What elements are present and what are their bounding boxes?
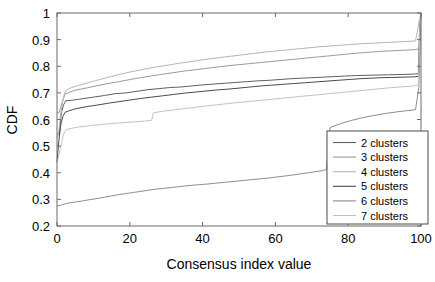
legend[interactable]: 2 clusters3 clusters4 clusters5 clusters… [327,131,428,224]
y-tick-label: 0.5 [32,139,50,154]
y-tick-label: 0.3 [32,192,50,207]
legend-label-6-clusters: 6 clusters [361,195,409,207]
y-tick-labels: 0.20.30.40.50.60.70.80.91 [32,6,50,234]
legend-label-4-clusters: 4 clusters [361,166,409,178]
y-tick-label: 0.9 [32,33,50,48]
consensus-cdf-plot: 020406080100 0.20.30.40.50.60.70.80.91 C… [0,0,435,282]
legend-label-2-clusters: 2 clusters [361,137,409,149]
legend-label-3-clusters: 3 clusters [361,151,409,163]
x-axis-title: Consensus index value [167,256,312,272]
x-tick-label: 40 [195,231,209,246]
y-tick-label: 1 [43,6,50,21]
y-tick-label: 0.8 [32,59,50,74]
y-tick-label: 0.2 [32,219,50,234]
x-tick-label: 0 [53,231,60,246]
y-tick-label: 0.7 [32,86,50,101]
legend-label-7-clusters: 7 clusters [361,210,409,222]
x-tick-label: 80 [341,231,355,246]
legend-label-5-clusters: 5 clusters [361,180,409,192]
cdf-chart-figure: 020406080100 0.20.30.40.50.60.70.80.91 C… [0,0,435,282]
x-tick-label: 60 [268,231,282,246]
y-tick-label: 0.6 [32,113,50,128]
y-axis-title: CDF [4,106,20,135]
y-tick-label: 0.4 [32,166,50,181]
x-tick-label: 100 [410,231,432,246]
x-tick-label: 20 [123,231,137,246]
